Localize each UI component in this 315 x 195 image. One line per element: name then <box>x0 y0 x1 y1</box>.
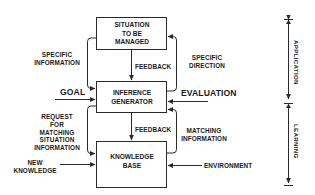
inference-generator-label: INFERENCE GENERATOR <box>97 82 167 113</box>
knowledge-line-2: BASE <box>110 162 154 171</box>
inference-line-1: INFERENCE <box>111 89 153 98</box>
request-loop <box>88 106 97 154</box>
specific-information-loop <box>88 38 97 89</box>
specific-information-label: SPECIFIC INFORMATION <box>33 51 81 67</box>
situation-box-label: SITUATION TO BE MANAGED <box>97 18 167 50</box>
situation-line-2: TO BE <box>114 30 149 39</box>
feedback-label-top: FEEDBACK <box>135 63 171 71</box>
request-label: REQUEST FOR MATCHING SITUATION INFORMATI… <box>32 113 82 152</box>
specific-direction-label: SPECIFIC DIRECTION <box>186 54 228 70</box>
environment-label: ENVIRONMENT <box>204 162 252 170</box>
learning-phase-label: LEARNING <box>293 124 300 159</box>
situation-line-3: MANAGED <box>114 38 149 47</box>
phase-scale-bar <box>284 20 293 186</box>
situation-line-1: SITUATION <box>114 21 149 30</box>
new-knowledge-label: NEW KNOWLEDGE <box>12 159 58 175</box>
knowledge-line-1: KNOWLEDGE <box>110 153 154 162</box>
evaluation-label: EVALUATION <box>181 88 237 98</box>
feedback-label-bottom: FEEDBACK <box>135 126 171 134</box>
knowledge-base-label: KNOWLEDGE BASE <box>97 142 167 182</box>
application-phase-label: APPLICATION <box>293 40 300 85</box>
goal-label: GOAL <box>60 87 85 97</box>
inference-line-2: GENERATOR <box>111 98 153 107</box>
matching-information-label: MATCHING INFORMATION <box>180 127 228 143</box>
